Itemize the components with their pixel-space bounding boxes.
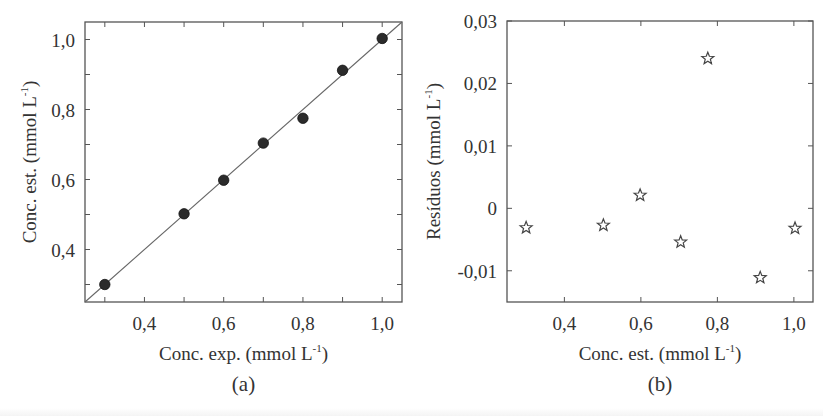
cut-off-caption-strip: [0, 408, 823, 416]
y-tick-label: 0,03: [464, 11, 497, 32]
data-point: [179, 209, 189, 219]
data-point: [298, 113, 308, 123]
y-tick-label: 1,0: [51, 30, 75, 51]
chart-b-frame: [507, 21, 813, 302]
star-marker-icon: [702, 52, 714, 63]
chart-a: 0,40,60,81,00,40,60,81,0 Conc. exp. (mmo…: [18, 22, 402, 396]
y-tick-label: 0,02: [464, 73, 497, 94]
y-tick-label: 0,8: [51, 100, 75, 121]
data-point: [377, 33, 387, 43]
chart-b-x-axis-label: Conc. est. (mmol L-1): [579, 342, 742, 365]
data-point: [258, 138, 268, 148]
y-tick-label: 0,4: [51, 240, 75, 261]
star-marker-icon: [675, 236, 687, 247]
figure: 0,40,60,81,00,40,60,81,0 Conc. exp. (mmo…: [0, 0, 823, 416]
star-marker-icon: [520, 221, 532, 232]
star-marker-icon: [789, 222, 801, 233]
chart-b: 0,40,60,81,0-0,0100,010,020,03 Conc. est…: [422, 11, 813, 396]
x-tick-label: 0,6: [212, 313, 236, 334]
chart-a-identity-line: [85, 22, 402, 302]
chart-b-y-axis-label: Resíduos (mmol L-1): [422, 83, 445, 240]
y-tick-label: 0,6: [51, 170, 75, 191]
star-marker-icon: [597, 219, 609, 230]
chart-a-y-axis-label: Conc. est. (mmol L-1): [18, 81, 41, 244]
chart-b-panel-label: (b): [648, 372, 673, 396]
y-tick-label: 0,01: [464, 136, 497, 157]
data-point: [100, 279, 110, 289]
chart-b-ticks: 0,40,60,81,0-0,0100,010,020,03: [457, 11, 813, 334]
data-point: [218, 175, 228, 185]
data-point: [337, 65, 347, 75]
chart-a-x-axis-label: Conc. exp. (mmol L-1): [159, 342, 328, 365]
x-tick-label: 0,8: [706, 313, 730, 334]
star-marker-icon: [754, 271, 766, 282]
chart-b-points: [520, 52, 801, 283]
y-tick-label: 0: [488, 198, 498, 219]
y-tick-label: -0,01: [457, 261, 497, 282]
star-marker-icon: [634, 189, 646, 200]
chart-a-panel-label: (a): [232, 372, 255, 396]
x-tick-label: 0,4: [133, 313, 157, 334]
x-tick-label: 1,0: [370, 313, 394, 334]
x-tick-label: 0,8: [291, 313, 315, 334]
x-tick-label: 0,4: [553, 313, 577, 334]
x-tick-label: 0,6: [629, 313, 653, 334]
x-tick-label: 1,0: [782, 313, 806, 334]
